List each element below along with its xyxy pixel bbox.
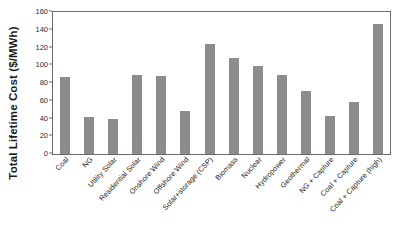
bars-layer — [53, 12, 390, 154]
y-axis-title: Total Lifetime Cost ($/MWh) — [0, 0, 26, 205]
bar — [229, 58, 239, 154]
y-tick-label: 140 — [35, 24, 48, 33]
y-axis-title-text: Total Lifetime Cost ($/MWh) — [7, 26, 19, 179]
y-tick-label: 80 — [40, 78, 48, 87]
y-tick-label: 60 — [40, 95, 48, 104]
bar-slot — [342, 12, 366, 154]
bar-slot — [101, 12, 125, 154]
bar — [277, 75, 287, 154]
bar-slot — [77, 12, 101, 154]
bar-slot — [173, 12, 197, 154]
y-tick-label: 20 — [40, 131, 48, 140]
x-tick-label: NG — [80, 155, 94, 169]
bar-slot — [197, 12, 221, 154]
bar-slot — [318, 12, 342, 154]
x-tick-label: Coal — [54, 155, 71, 172]
bar-slot — [294, 12, 318, 154]
bar — [205, 44, 215, 154]
bar — [349, 102, 359, 154]
bar-slot — [125, 12, 149, 154]
bar-slot — [222, 12, 246, 154]
bar-slot — [53, 12, 77, 154]
y-tick-label: 100 — [35, 60, 48, 69]
bar — [325, 116, 335, 154]
bar-slot — [366, 12, 390, 154]
y-tick-label: 120 — [35, 42, 48, 51]
y-axis-tick-labels: 020406080100120140160 — [27, 5, 50, 159]
bar — [180, 111, 190, 154]
x-tick-label: Biomass — [213, 155, 239, 182]
bar — [132, 75, 142, 154]
bar-slot — [246, 12, 270, 154]
bar — [84, 117, 94, 154]
y-tick-label: 160 — [35, 7, 48, 16]
bar-chart: Total Lifetime Cost ($/MWh) 020406080100… — [0, 0, 397, 234]
bar — [156, 76, 166, 154]
bar — [60, 77, 70, 154]
bar — [301, 91, 311, 154]
bar-slot — [270, 12, 294, 154]
bar-slot — [149, 12, 173, 154]
bar — [108, 119, 118, 155]
y-tick-label: 40 — [40, 113, 48, 122]
plot-area — [52, 11, 391, 155]
bar — [253, 66, 263, 154]
x-axis-tick-labels: CoalNGUtility SolarResidential SolarOnsh… — [52, 155, 389, 234]
bar — [373, 24, 383, 154]
y-tick-label: 0 — [44, 149, 48, 158]
